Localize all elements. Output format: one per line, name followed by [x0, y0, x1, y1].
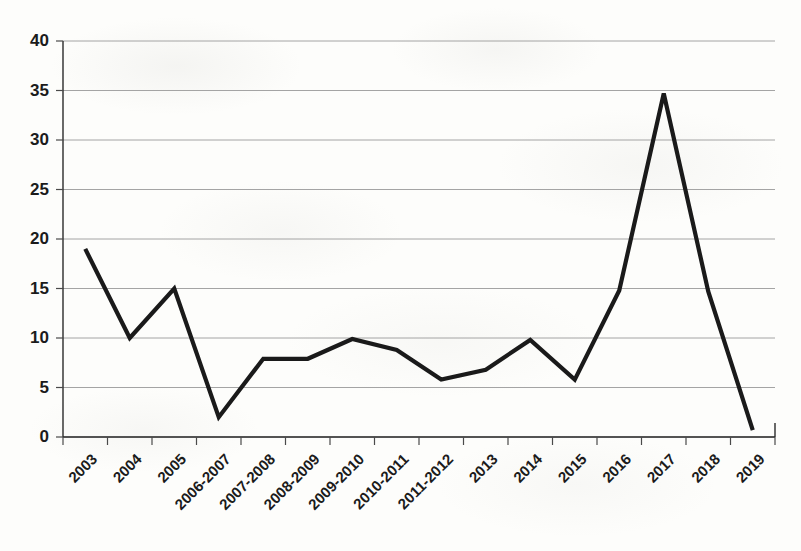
x-tick-label: 2013 — [465, 450, 501, 486]
y-tick-label: 5 — [40, 378, 49, 397]
y-tick-label: 10 — [30, 328, 49, 347]
y-tick-label: 15 — [30, 279, 49, 298]
x-tick-label: 2005 — [154, 450, 190, 486]
y-tick-label: 40 — [30, 31, 49, 50]
y-tick-label: 35 — [30, 81, 49, 100]
x-tick-label: 2019 — [732, 450, 768, 486]
y-axis-ticks: 0510152025303540 — [30, 31, 63, 446]
line-chart: 05101520253035402003200420052006-2007200… — [0, 0, 801, 551]
y-tick-label: 25 — [30, 180, 49, 199]
x-tick-label: 2014 — [510, 450, 546, 486]
y-tick-label: 30 — [30, 130, 49, 149]
data-line-series-1 — [85, 93, 753, 430]
x-tick-label: 2004 — [109, 450, 145, 486]
x-tick-label: 2016 — [599, 450, 635, 486]
x-tick-label: 2015 — [554, 450, 590, 486]
x-tick-label: 2017 — [643, 450, 679, 486]
x-tick-label: 2003 — [65, 450, 101, 486]
y-tick-label: 0 — [40, 427, 49, 446]
gridlines — [63, 41, 775, 437]
x-tick-label: 2018 — [688, 450, 724, 486]
y-tick-label: 20 — [30, 229, 49, 248]
x-axis-ticks: 2003200420052006-20072007-20082008-20092… — [63, 437, 775, 513]
chart-page: 05101520253035402003200420052006-2007200… — [0, 0, 801, 551]
